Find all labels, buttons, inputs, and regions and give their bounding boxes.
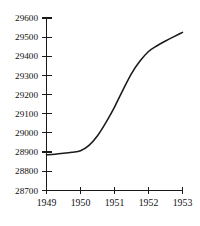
y-tick-label: 29100 (15, 109, 38, 119)
chart-canvas: 2870028800289002900029100292002930029400… (0, 0, 200, 226)
x-tick-label: 1951 (105, 197, 125, 208)
x-tick-label: 1952 (139, 197, 159, 208)
x-tick-label: 1953 (173, 197, 193, 208)
y-tick-label: 28800 (15, 166, 38, 176)
y-tick-label: 28900 (15, 147, 38, 157)
y-tick-label: 29300 (15, 71, 38, 81)
y-tick-label: 29200 (15, 90, 38, 100)
y-tick-label: 28700 (15, 186, 38, 196)
line-chart: 2870028800289002900029100292002930029400… (0, 0, 200, 226)
y-tick-label: 29500 (15, 32, 38, 42)
y-tick-label: 29400 (15, 51, 38, 61)
x-tick-label: 1949 (37, 197, 57, 208)
x-tick-label: 1950 (71, 197, 91, 208)
y-tick-label: 29000 (15, 128, 38, 138)
y-tick-label: 29600 (15, 13, 38, 23)
